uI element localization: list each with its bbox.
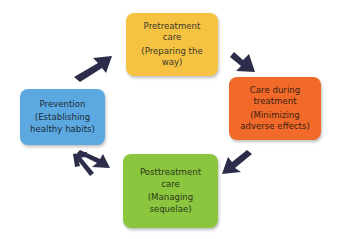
title-line: Care during (250, 85, 300, 97)
title-line: Pretreatment (144, 21, 201, 33)
subtitle-line: healthy habits) (30, 124, 95, 136)
title-line: care (140, 179, 201, 191)
node-subtitle: (Preparing the way) (141, 46, 202, 69)
subtitle-line: way) (141, 57, 202, 69)
title-line: treatment (250, 96, 300, 108)
node-subtitle: (Establishing healthy habits) (30, 112, 95, 135)
subtitle-line: (Preparing the (141, 46, 202, 58)
title-line: care (144, 32, 201, 44)
node-prevention: Prevention (Establishing healthy habits) (20, 89, 105, 145)
subtitle-line: (Establishing (30, 112, 95, 124)
arrow-prevention-to-pretreatment-icon (74, 56, 112, 82)
title-line: Posttreatment (140, 167, 201, 179)
node-pretreatment-care: Pretreatment care (Preparing the way) (126, 13, 218, 76)
subtitle-line: adverse effects) (240, 121, 310, 133)
node-title: Posttreatment care (140, 167, 201, 190)
title-line: Prevention (40, 99, 86, 111)
node-care-during-treatment: Care during treatment (Minimizing advers… (229, 77, 321, 140)
node-title: Care during treatment (250, 85, 300, 108)
arrow-pretreatment-to-care-icon (230, 52, 255, 72)
arrow-care-to-posttreatment-icon (222, 150, 252, 174)
subtitle-line: (Minimizing (240, 110, 310, 122)
subtitle-line: sequelae) (148, 204, 194, 216)
node-title: Pretreatment care (144, 21, 201, 44)
node-subtitle: (Managing sequelae) (148, 192, 194, 215)
node-posttreatment-care: Posttreatment care (Managing sequelae) (123, 154, 218, 228)
subtitle-line: (Managing (148, 192, 194, 204)
node-title: Prevention (40, 99, 86, 111)
node-subtitle: (Minimizing adverse effects) (240, 110, 310, 133)
